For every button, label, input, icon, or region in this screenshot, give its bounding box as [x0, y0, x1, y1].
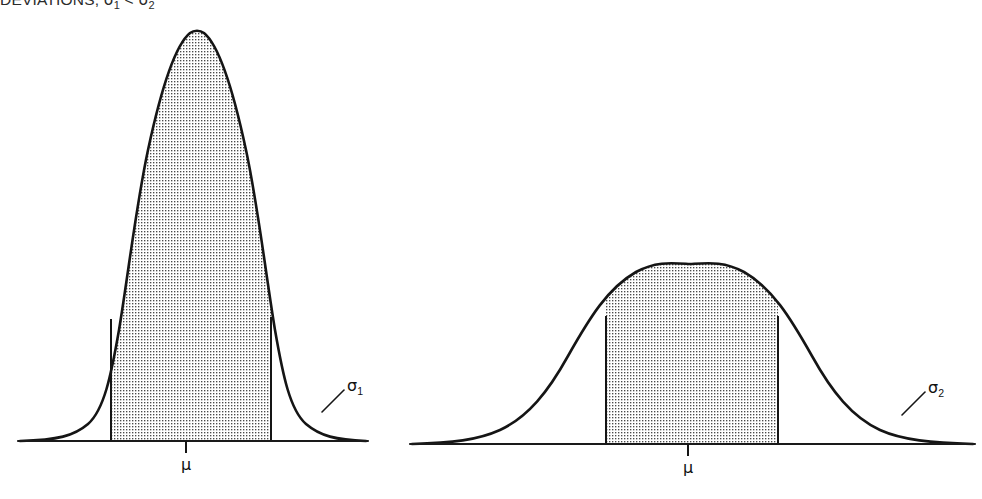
- sigma-1-glyph: σ: [347, 376, 357, 395]
- leader-line-sigma-1: [322, 390, 344, 412]
- distribution-sigma-2: [410, 263, 975, 456]
- mu-label-sigma-2: µ: [683, 460, 693, 476]
- distribution-sigma-1: [18, 31, 368, 453]
- leader-line-sigma-2: [902, 392, 925, 415]
- figure-canvas: DEVIATIONS; σ1 < σ2: [0, 0, 982, 499]
- sigma-2-subscript: 2: [938, 387, 944, 399]
- sigma-1-subscript: 1: [357, 385, 363, 397]
- mu-label-sigma-1: µ: [181, 457, 191, 473]
- sigma-2-label: σ2: [928, 380, 944, 399]
- distribution-plot: [0, 0, 982, 499]
- shaded-region-sigma-1: [20, 31, 366, 441]
- sigma-1-label: σ1: [347, 378, 363, 397]
- shaded-region-sigma-2: [412, 263, 973, 444]
- sigma-2-glyph: σ: [928, 378, 938, 397]
